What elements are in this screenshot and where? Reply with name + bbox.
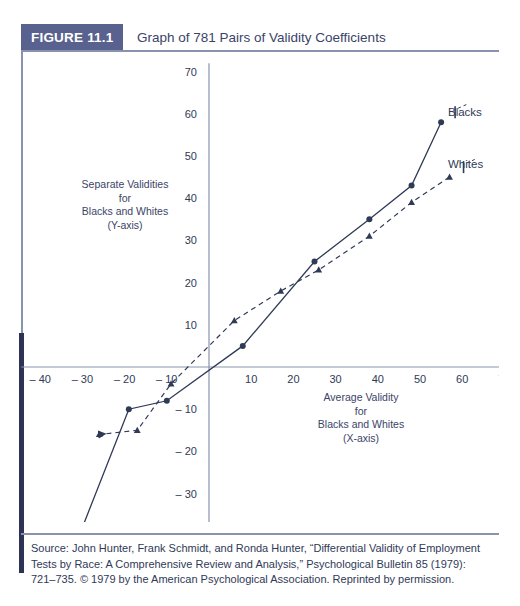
figure-header: FIGURE 11.1 Graph of 781 Pairs of Validi… <box>21 24 499 50</box>
y-tick-label: 10 <box>185 319 197 331</box>
data-point-circle <box>312 259 318 265</box>
data-point-circle <box>240 343 246 349</box>
axis-tick-labels: – 40– 30– 20– 1010203040506070– 40– 30– … <box>29 66 499 522</box>
figure-title: Graph of 781 Pairs of Validity Coefficie… <box>137 24 386 50</box>
data-point-triangle <box>408 199 415 205</box>
figure-number-tab: FIGURE 11.1 <box>21 24 123 50</box>
x-tick-label: 60 <box>456 373 468 385</box>
figure-container: FIGURE 11.1 Graph of 781 Pairs of Validi… <box>0 0 520 606</box>
data-point-triangle <box>366 233 373 239</box>
scatter-line-chart: – 40– 30– 20– 1010203040506070– 40– 30– … <box>21 52 499 522</box>
series-blacks <box>79 104 467 522</box>
source-divider <box>21 533 499 535</box>
y-tick-label: 70 <box>185 66 197 78</box>
x-tick-label: – 40 <box>29 373 50 385</box>
x-tick-label: 70 <box>498 373 499 385</box>
x-axis-caption: Average Validity for Blacks and Whites (… <box>286 391 436 445</box>
x-tick-label: – 30 <box>72 373 93 385</box>
x-tick-label: 30 <box>329 373 341 385</box>
x-tick-label: 40 <box>372 373 384 385</box>
data-series-group <box>79 104 475 522</box>
data-point-circle <box>126 406 132 412</box>
axes-group <box>21 63 499 522</box>
x-tick-label: – 10 <box>156 373 177 385</box>
x-tick-label: 10 <box>245 373 257 385</box>
series-label-blacks: Blacks <box>448 106 482 118</box>
data-point-triangle <box>315 266 322 272</box>
y-tick-label: 50 <box>185 150 197 162</box>
data-point-triangle <box>134 427 141 433</box>
y-tick-label: 20 <box>185 277 197 289</box>
data-point-circle <box>164 398 170 404</box>
y-tick-label: 30 <box>185 234 197 246</box>
x-tick-label: 50 <box>414 373 426 385</box>
y-tick-label: 60 <box>185 108 197 120</box>
y-tick-label: – 30 <box>176 488 197 500</box>
y-axis-caption: Separate Validities for Blacks and White… <box>50 178 200 232</box>
data-point-triangle <box>231 317 238 323</box>
y-tick-label: – 20 <box>176 445 197 457</box>
y-tick-label: – 10 <box>176 403 197 415</box>
series-label-whites: Whites <box>448 158 483 170</box>
data-point-circle <box>366 216 372 222</box>
x-tick-label: 20 <box>287 373 299 385</box>
data-point-circle <box>409 183 415 189</box>
source-note: Source: John Hunter, Frank Schmidt, and … <box>31 541 493 588</box>
plot-area: – 40– 30– 20– 1010203040506070– 40– 30– … <box>21 52 499 522</box>
x-tick-label: – 20 <box>114 373 135 385</box>
data-point-triangle <box>446 174 453 180</box>
data-point-triangle <box>277 287 284 293</box>
data-point-circle <box>438 119 444 125</box>
